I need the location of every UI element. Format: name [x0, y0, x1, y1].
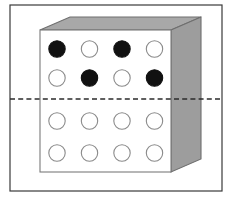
diagram-canvas [0, 0, 231, 200]
grid-circle-r1-c3-filled [114, 41, 130, 57]
grid-circle-r3-c3-open [114, 113, 130, 129]
box-right-side-face [171, 17, 201, 172]
grid-circle-r1-c2-open [81, 41, 97, 57]
grid-circle-r3-c4-open [146, 113, 162, 129]
grid-circle-r2-c2-filled [81, 70, 97, 86]
grid-circle-r2-c1-open [49, 70, 65, 86]
grid-circle-r2-c3-open [114, 70, 130, 86]
grid-circle-r4-c3-open [114, 145, 130, 161]
grid-circle-r2-c4-filled [146, 70, 162, 86]
grid-circle-r4-c4-open [146, 145, 162, 161]
grid-circle-r4-c1-open [49, 145, 65, 161]
grid-circle-r1-c1-filled [49, 41, 65, 57]
grid-circle-r4-c2-open [81, 145, 97, 161]
grid-circle-r3-c2-open [81, 113, 97, 129]
grid-circle-r1-c4-open [146, 41, 162, 57]
figure-container [0, 0, 231, 200]
grid-circle-r3-c1-open [49, 113, 65, 129]
